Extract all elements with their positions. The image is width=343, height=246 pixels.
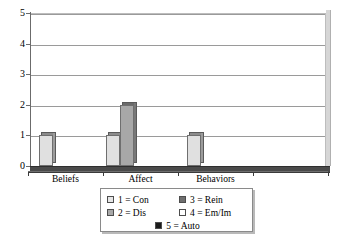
plot-area — [30, 13, 326, 166]
bar-affect-dis — [120, 105, 134, 166]
bar-beliefs-con — [39, 135, 53, 166]
gridline-4 — [31, 45, 325, 46]
y-tick-4 — [26, 44, 30, 45]
bar-side — [134, 102, 137, 163]
legend-swatch-icon — [179, 196, 186, 203]
legend-label: 3 = Rein — [190, 195, 223, 205]
legend-label: 2 = Dis — [118, 208, 146, 218]
legend-item-dis: 2 = Dis — [107, 208, 179, 218]
y-tick-1 — [26, 135, 30, 136]
y-axis-label-4: 4 — [20, 39, 25, 49]
x-tick-3 — [253, 172, 254, 176]
legend-item-rein: 3 = Rein — [179, 195, 223, 205]
bar-face — [187, 135, 201, 166]
legend-label: 5 = Auto — [166, 221, 199, 231]
legend-item-auto: 5 = Auto — [155, 221, 199, 231]
gridline-1 — [31, 136, 325, 137]
y-axis-label-0: 0 — [20, 161, 25, 171]
bar-face — [120, 105, 134, 166]
bar-face — [39, 135, 53, 166]
legend-label: 1 = Con — [118, 195, 149, 205]
bar-behaviors-con — [187, 135, 201, 166]
y-tick-5 — [26, 13, 30, 14]
gridline-3 — [31, 75, 325, 76]
y-axis-label-2: 2 — [20, 100, 25, 110]
y-axis-label-5: 5 — [20, 8, 25, 18]
y-axis-label-3: 3 — [20, 69, 25, 79]
x-tick-4 — [328, 172, 329, 176]
legend-item-con: 1 = Con — [107, 195, 179, 205]
bar-side — [201, 132, 204, 163]
x-axis-line — [28, 172, 330, 173]
bar-chart: 5 4 3 2 1 0 Beliefs Affect Behaviors — [0, 0, 343, 246]
chart-legend: 1 = Con 3 = Rein 2 = Dis 4 = Em/Im — [100, 188, 253, 232]
x-axis-label-beliefs: Beliefs — [28, 174, 103, 185]
legend-row: 2 = Dis 4 = Em/Im — [107, 206, 248, 219]
legend-swatch-icon — [179, 209, 186, 216]
y-tick-3 — [26, 74, 30, 75]
legend-label: 4 = Em/Im — [190, 208, 231, 218]
y-axis-label-1: 1 — [20, 130, 25, 140]
gridline-5 — [31, 14, 325, 15]
y-tick-2 — [26, 105, 30, 106]
gridline-2 — [31, 106, 325, 107]
legend-row: 1 = Con 3 = Rein — [107, 193, 248, 206]
y-axis-line — [30, 12, 31, 167]
bar-side — [53, 132, 56, 163]
plot-depth-edge — [326, 10, 331, 166]
legend-grid: 1 = Con 3 = Rein 2 = Dis 4 = Em/Im — [107, 193, 248, 232]
x-axis-label-affect: Affect — [103, 174, 178, 185]
legend-swatch-icon — [155, 222, 162, 229]
legend-swatch-icon — [107, 196, 114, 203]
x-axis-label-behaviors: Behaviors — [178, 174, 253, 185]
legend-swatch-icon — [107, 209, 114, 216]
bar-face — [106, 135, 120, 166]
legend-item-emim: 4 = Em/Im — [179, 208, 231, 218]
bar-affect-con — [106, 135, 120, 166]
legend-row: 5 = Auto — [107, 219, 248, 232]
